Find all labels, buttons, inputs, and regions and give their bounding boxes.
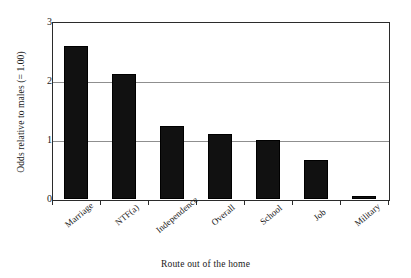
x-tick-label-text: Military — [352, 201, 382, 229]
bar-slot — [292, 22, 340, 199]
x-tick-label-text: Marriage — [63, 200, 96, 230]
bar — [256, 140, 280, 199]
y-tick-label: 2 — [34, 76, 52, 86]
bar — [352, 196, 376, 199]
x-tick-label-text: Job — [311, 207, 328, 224]
bar — [64, 46, 88, 199]
bar-slot — [196, 22, 244, 199]
x-tick-label: Job — [292, 205, 340, 223]
x-tick-label-text: School — [258, 203, 285, 228]
bars-layer — [52, 22, 388, 199]
y-tick-label: 0 — [34, 194, 52, 204]
bar — [304, 160, 328, 199]
bar-slot — [52, 22, 100, 199]
x-tick-label: Independence — [148, 205, 196, 223]
y-axis-title: Odds relative to males (= 1.00) — [13, 22, 29, 202]
bar — [112, 74, 136, 199]
bar — [160, 126, 184, 199]
bar-slot — [148, 22, 196, 199]
x-tick-label: Military — [340, 205, 388, 223]
bar-slot — [100, 22, 148, 199]
y-tick-label: 3 — [34, 17, 52, 27]
x-tick-label: School — [244, 205, 292, 223]
bar-slot — [244, 22, 292, 199]
y-axis-ticks: 0123 — [30, 22, 52, 199]
x-tick-label-text: Overall — [209, 202, 237, 228]
x-tick-label: Marriage — [52, 205, 100, 223]
bar-slot — [340, 22, 388, 199]
y-tick-label: 1 — [34, 135, 52, 145]
x-tick-label: Overall — [196, 205, 244, 223]
x-axis-labels: MarriageNTF(a)IndependenceOverallSchoolJ… — [52, 205, 390, 253]
bar — [208, 134, 232, 199]
x-tick-label-text: NTF(a) — [113, 202, 141, 228]
x-tick-label: NTF(a) — [100, 205, 148, 223]
x-axis-title: Route out of the home — [0, 258, 411, 270]
bar-chart: Odds relative to males (= 1.00) 0123 Mar… — [0, 0, 411, 278]
